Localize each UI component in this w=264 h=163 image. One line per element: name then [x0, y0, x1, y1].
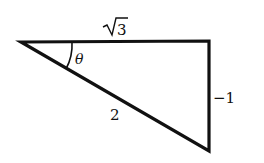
triangle [21, 41, 209, 151]
angle-label: θ [75, 51, 84, 67]
triangle-diagram: 3 θ 2 −1 [0, 0, 264, 163]
adjacent-value: 3 [117, 21, 127, 39]
angle-arc [66, 42, 72, 69]
opposite-label: −1 [213, 89, 235, 107]
adjacent-label: 3 [103, 18, 128, 39]
hypotenuse-label: 2 [110, 106, 120, 124]
